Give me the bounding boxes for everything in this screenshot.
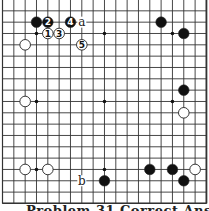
white-stone (20, 96, 31, 107)
black-stone (178, 28, 189, 39)
star-point (103, 168, 107, 172)
star-point (171, 32, 175, 36)
star-point (35, 168, 39, 172)
star-point (35, 100, 39, 104)
move-number-3: 3 (56, 29, 62, 39)
black-stone (99, 175, 110, 186)
star-point (103, 32, 107, 36)
diagram-caption: Problem 31 Correct Answer (26, 203, 209, 211)
black-stone (178, 85, 189, 96)
black-stone (31, 17, 42, 28)
letter-mark-b: b (78, 174, 86, 188)
black-stone (167, 164, 178, 175)
black-stone (156, 17, 167, 28)
letter-mark-a: a (78, 15, 85, 29)
move-number-5: 5 (79, 40, 85, 50)
go-board-svg: ab 24135 (0, 0, 209, 204)
go-board: ab 24135 (0, 0, 209, 204)
black-stone (144, 164, 155, 175)
star-point (171, 100, 175, 104)
white-stone (20, 40, 31, 51)
white-stone (20, 164, 31, 175)
black-stone (178, 175, 189, 186)
star-point (103, 100, 107, 104)
white-stone (43, 164, 54, 175)
move-number-1: 1 (45, 29, 51, 39)
move-number-2: 2 (45, 17, 51, 27)
white-stone (178, 108, 189, 119)
move-number-4: 4 (67, 17, 73, 27)
star-point (35, 32, 39, 36)
white-stone (190, 164, 201, 175)
